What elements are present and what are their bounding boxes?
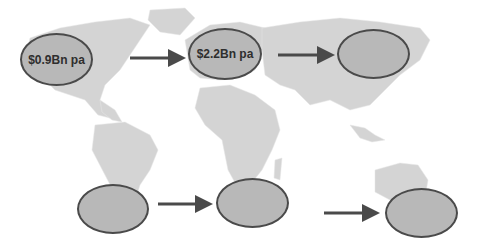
central-america-landmass: [100, 100, 122, 122]
node-north-america: $0.9Bn pa: [20, 33, 93, 86]
madagascar-landmass: [274, 158, 282, 180]
node-label: $2.2Bn pa: [197, 47, 254, 61]
node-asia: [337, 29, 410, 79]
node-south-america: [77, 184, 149, 234]
southeast-asia-islands: [350, 125, 385, 142]
node-africa: [216, 178, 289, 228]
node-europe: $2.2Bn pa: [188, 28, 262, 80]
world-map-diagram: $0.9Bn pa $2.2Bn pa: [0, 0, 495, 247]
greenland-landmass: [148, 8, 195, 35]
africa-landmass: [195, 85, 280, 188]
node-oceania: [385, 188, 458, 238]
node-label: $0.9Bn pa: [28, 53, 85, 67]
